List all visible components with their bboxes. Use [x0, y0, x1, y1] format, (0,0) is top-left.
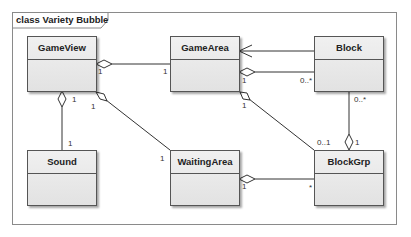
class-gameview[interactable]: GameView [27, 36, 97, 92]
class-diagram: class Variety Bubble GameView GameArea B… [0, 0, 411, 237]
multiplicity-label: 1 [98, 67, 102, 76]
multiplicity-label: 1 [163, 67, 167, 76]
multiplicity-label: 1 [68, 139, 72, 148]
multiplicity-label: 1 [160, 154, 164, 163]
class-name: BlockGrp [315, 151, 383, 174]
multiplicity-label: 1 [242, 182, 246, 191]
multiplicity-label: 1 [91, 102, 95, 111]
multiplicity-label: 1 [72, 95, 76, 104]
class-sound[interactable]: Sound [27, 150, 97, 206]
multiplicity-label: 0..* [354, 95, 366, 104]
class-gamearea[interactable]: GameArea [170, 36, 240, 92]
multiplicity-label: 0..* [300, 76, 312, 85]
class-waitingarea[interactable]: WaitingArea [170, 150, 240, 206]
connector-gamearea-blockgrp [249, 99, 314, 150]
class-name: Sound [28, 151, 96, 174]
class-block[interactable]: Block [314, 36, 384, 92]
aggregation-diamond-icon [239, 68, 255, 76]
aggregation-diamond-icon [240, 92, 250, 100]
class-name: GameArea [171, 37, 239, 60]
class-attributes [28, 60, 96, 91]
aggregation-diamond-icon [58, 91, 66, 107]
frame-title: class Variety Bubble [16, 14, 108, 25]
class-name: Block [315, 37, 383, 60]
aggregation-diamond-icon [96, 92, 107, 101]
multiplicity-label: 1 [242, 101, 246, 110]
class-attributes [28, 174, 96, 205]
class-name: GameView [28, 37, 96, 60]
class-blockgrp[interactable]: BlockGrp [314, 150, 384, 206]
multiplicity-label: 0..1 [317, 138, 330, 147]
class-attributes [171, 60, 239, 91]
class-name: WaitingArea [171, 151, 239, 174]
connector-gameview-waitingarea [106, 100, 170, 150]
multiplicity-label: 1 [242, 76, 246, 85]
class-attributes [315, 174, 383, 205]
multiplicity-label: * [309, 183, 312, 192]
class-attributes [171, 174, 239, 205]
aggregation-diamond-icon [345, 134, 353, 150]
class-attributes [315, 60, 383, 91]
multiplicity-label: 1 [355, 138, 359, 147]
